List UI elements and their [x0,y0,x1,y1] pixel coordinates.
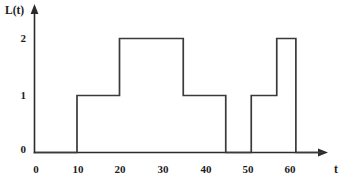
y-tick-label-2: 2 [10,33,26,44]
y-tick-label-0: 0 [10,144,26,155]
x-tick-label-30: 30 [158,164,169,175]
x-tick-label-0: 0 [33,164,39,175]
chart-plot-area [0,0,347,184]
y-tick-label-1: 1 [10,90,26,101]
y-axis-arrow-icon [31,4,39,14]
step-function-line [35,39,324,153]
x-tick-label-40: 40 [201,164,212,175]
x-tick-label-10: 10 [73,164,84,175]
y-axis-title: L(t) [5,5,24,17]
step-function-chart: L(t) t 2 1 0 0 10 20 30 40 50 60 [0,0,347,184]
x-tick-label-50: 50 [243,164,254,175]
x-tick-label-60: 60 [285,164,296,175]
x-tick-label-20: 20 [115,164,126,175]
x-axis-title: t [334,164,338,176]
